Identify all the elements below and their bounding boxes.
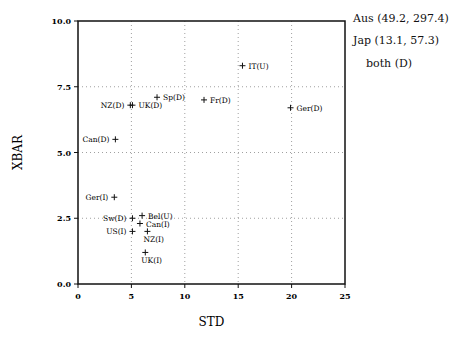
data-point-label: Ger(D) — [297, 104, 323, 113]
data-point-label: Ger(I) — [85, 193, 108, 202]
data-point-label: Fr(D) — [210, 96, 231, 105]
x-tick-label: 5 — [129, 291, 135, 301]
note-jap: Jap (13.1, 57.3) — [353, 34, 439, 47]
note-aus: Aus (49.2, 297.4) — [353, 12, 449, 25]
note-both: both (D) — [366, 57, 412, 70]
data-point-label: UK(I) — [141, 256, 162, 265]
x-tick-label: 10 — [179, 291, 191, 301]
data-point-label: IT(U) — [248, 62, 268, 71]
data-point-label: US(I) — [106, 227, 126, 236]
data-point-label: NZ(D) — [101, 101, 125, 110]
data-point-label: UK(D) — [138, 101, 162, 110]
data-point-label: Can(D) — [82, 135, 109, 144]
data-point-label: NZ(I) — [143, 235, 164, 244]
y-axis-title: XBAR — [11, 134, 25, 170]
x-axis-title: STD — [199, 315, 225, 329]
y-tick-label: 2.5 — [57, 213, 71, 223]
y-tick-label: 7.5 — [57, 82, 71, 92]
x-tick-label: 0 — [75, 291, 81, 301]
x-tick-label: 25 — [339, 291, 350, 301]
data-point-label: Can(I) — [146, 220, 170, 229]
x-tick-label: 20 — [286, 291, 298, 301]
data-point-label: Sp(D) — [163, 93, 185, 102]
y-tick-label: 5.0 — [57, 148, 71, 158]
scatter-plot: 05101520250.02.55.07.510.0STDXBARIT(U)Sp… — [0, 0, 459, 343]
x-tick-label: 15 — [233, 291, 244, 301]
y-tick-label: 10.0 — [52, 16, 72, 26]
y-tick-label: 0.0 — [57, 279, 71, 289]
data-point-label: Sw(D) — [103, 214, 126, 223]
